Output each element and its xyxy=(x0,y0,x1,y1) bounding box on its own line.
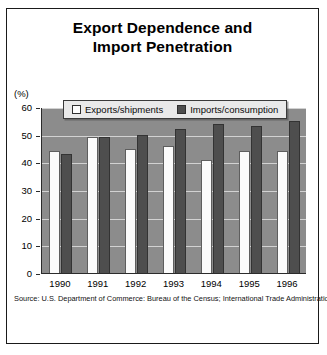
bar-imports-1992 xyxy=(137,135,148,273)
bar-imports-1996 xyxy=(289,121,300,273)
x-axis-label-1995: 1995 xyxy=(229,278,269,289)
y-axis-tick-label: 30 xyxy=(0,186,32,196)
bar-exports-1996 xyxy=(277,151,288,273)
legend-label-exports: Exports/shipments xyxy=(85,104,163,115)
bar-exports-1991 xyxy=(87,137,98,273)
y-axis-tick-mark xyxy=(36,108,40,109)
chart-title-line-1: Export Dependence and xyxy=(6,18,319,37)
bar-exports-1993 xyxy=(163,146,174,273)
y-axis-tick-label: 50 xyxy=(0,131,32,141)
bar-exports-1995 xyxy=(239,151,250,273)
y-axis-tick-mark xyxy=(36,274,40,275)
y-axis-tick-mark xyxy=(36,191,40,192)
legend-swatch-dark-icon xyxy=(177,105,186,114)
y-axis-tick-label: 40 xyxy=(0,158,32,168)
bar-exports-1992 xyxy=(125,149,136,274)
legend-item-imports: Imports/consumption xyxy=(177,104,278,115)
chart-legend: Exports/shipments Imports/consumption xyxy=(63,100,287,119)
bar-imports-1993 xyxy=(175,129,186,273)
bar-exports-1994 xyxy=(201,160,212,273)
chart-figure: Export Dependence and Import Penetration… xyxy=(0,0,327,355)
x-axis-label-1992: 1992 xyxy=(116,278,156,289)
y-axis-tick-mark xyxy=(36,136,40,137)
y-axis-tick-label: 60 xyxy=(0,103,32,113)
y-axis-tick-label: 10 xyxy=(0,241,32,251)
gridline xyxy=(42,246,306,247)
x-axis-label-1994: 1994 xyxy=(191,278,231,289)
chart-title-line-2: Import Penetration xyxy=(6,37,319,56)
gridline xyxy=(42,191,306,192)
plot-area xyxy=(41,108,306,274)
y-axis-tick-mark xyxy=(36,163,40,164)
y-axis-tick-label: 0 xyxy=(0,269,32,279)
legend-item-exports: Exports/shipments xyxy=(72,104,163,115)
gridline xyxy=(42,219,306,220)
source-note: Source: U.S. Department of Commerce: Bur… xyxy=(14,294,314,303)
chart-title: Export Dependence and Import Penetration xyxy=(6,18,319,56)
gridline xyxy=(42,136,306,137)
gridline xyxy=(42,163,306,164)
bar-imports-1991 xyxy=(99,137,110,273)
y-axis-unit-label: (%) xyxy=(14,88,29,99)
x-axis-label-1993: 1993 xyxy=(154,278,194,289)
y-axis-tick-mark xyxy=(36,219,40,220)
x-axis-label-1991: 1991 xyxy=(78,278,118,289)
y-axis-tick-mark xyxy=(36,246,40,247)
x-axis-label-1990: 1990 xyxy=(40,278,80,289)
legend-label-imports: Imports/consumption xyxy=(190,104,278,115)
bar-exports-1990 xyxy=(49,151,60,273)
x-axis-label-1996: 1996 xyxy=(267,278,307,289)
bar-imports-1995 xyxy=(251,126,262,273)
legend-swatch-white-icon xyxy=(72,105,81,114)
bar-imports-1990 xyxy=(61,154,72,273)
bar-imports-1994 xyxy=(213,124,224,273)
y-axis-tick-label: 20 xyxy=(0,214,32,224)
